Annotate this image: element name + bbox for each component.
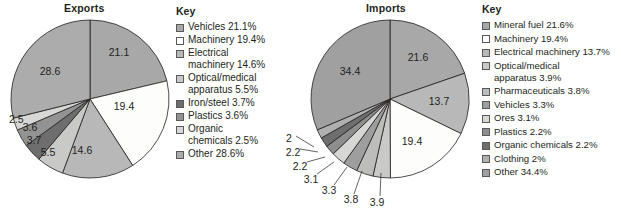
exports-key-item: Electrical machinery 14.6%	[176, 47, 311, 71]
exports-key-swatch	[176, 151, 184, 159]
exports-key-swatch	[176, 126, 184, 134]
imports-key-swatch	[482, 62, 490, 70]
imports-key-swatch	[482, 115, 490, 123]
imports-slice-label: 3.9	[370, 196, 385, 208]
exports-slice-label: 2.5	[9, 113, 24, 125]
exports-key-label: Iron/steel 3.7%	[188, 97, 255, 109]
exports-key-item: Plastics 3.6%	[176, 110, 311, 122]
imports-key-label: Plastics 2.2%	[494, 126, 552, 138]
imports-key-label: Machinery 19.4%	[494, 33, 568, 45]
imports-slice-label: 19.4	[402, 135, 423, 147]
imports-key: Key Mineral fuel 21.6%Machinery 19.4%Ele…	[482, 3, 617, 180]
exports-slice-label: 3.6	[23, 121, 38, 133]
exports-key-swatch	[176, 24, 184, 32]
imports-pie-chart: 21.613.719.434.43.93.83.33.12.22.22	[300, 13, 485, 208]
imports-slice-label: 3.3	[322, 184, 337, 196]
imports-key-swatch	[482, 142, 490, 150]
imports-slice-label: 21.6	[408, 51, 429, 63]
imports-key-swatch	[482, 35, 490, 43]
imports-key-label: Ores 3.1%	[494, 112, 539, 124]
exports-key-swatch	[176, 75, 184, 83]
exports-key-label: Vehicles 21.1%	[188, 21, 256, 33]
exports-pie-chart: 21.119.414.65.53.73.628.62.5	[8, 13, 173, 188]
imports-slice-label: 13.7	[429, 95, 450, 107]
exports-slice-label: 14.6	[72, 144, 93, 156]
imports-key-swatch	[482, 88, 490, 96]
exports-pie-svg: 21.119.414.65.53.73.628.62.5	[8, 13, 173, 188]
imports-leader-line	[354, 171, 362, 194]
exports-slice-label: 3.7	[27, 134, 42, 146]
imports-leader-line	[300, 149, 318, 152]
exports-key-label: Organic chemicals 2.5%	[188, 123, 258, 147]
exports-key-swatch	[176, 50, 184, 58]
exports-slice-label: 5.5	[41, 146, 56, 158]
exports-key-label: Machinery 19.4%	[188, 34, 265, 46]
imports-slice-label: 2.2	[286, 146, 301, 158]
imports-key-swatch	[482, 169, 490, 177]
exports-key-label: Optical/medical apparatus 5.5%	[188, 72, 258, 96]
imports-slice-label: 3.8	[344, 193, 359, 205]
exports-key-item: Vehicles 21.1%	[176, 21, 311, 33]
imports-key-label: Vehicles 3.3%	[494, 99, 554, 111]
imports-key-swatch	[482, 128, 490, 136]
exports-key-item: Machinery 19.4%	[176, 34, 311, 46]
imports-leader-line	[317, 162, 334, 174]
imports-key-item: Vehicles 3.3%	[482, 99, 617, 111]
imports-slice-label: 34.4	[340, 65, 361, 77]
exports-slice-label: 21.1	[109, 46, 130, 58]
exports-chart-panel: Exports 21.119.414.65.53.73.628.62.5 Key…	[0, 0, 300, 215]
imports-leader-line	[307, 157, 325, 162]
imports-key-label: Organic chemicals 2.2%	[494, 139, 597, 151]
imports-slice-label: 3.1	[304, 173, 319, 185]
exports-key-swatch	[176, 113, 184, 121]
exports-slice-label: 28.6	[40, 65, 61, 77]
exports-key-label: Other 28.6%	[188, 148, 244, 160]
exports-key-title: Key	[176, 5, 311, 17]
imports-key-title: Key	[482, 3, 617, 15]
imports-key-label: Clothing 2%	[494, 153, 546, 165]
imports-key-item: Clothing 2%	[482, 153, 617, 165]
imports-key-label: Other 34.4%	[494, 166, 548, 178]
imports-key-item: Machinery 19.4%	[482, 33, 617, 45]
imports-pie-svg: 21.613.719.434.43.93.83.33.12.22.22	[300, 13, 485, 208]
imports-chart-panel: Imports 21.613.719.434.43.93.83.33.12.22…	[300, 0, 621, 215]
imports-key-swatch	[482, 101, 490, 109]
imports-key-label: Pharmaceuticals 3.8%	[494, 85, 589, 97]
imports-leader-line	[334, 167, 347, 185]
exports-key-swatch	[176, 37, 184, 45]
imports-key-item: Optical/medical apparatus 3.9%	[482, 60, 617, 84]
imports-key-item: Plastics 2.2%	[482, 126, 617, 138]
imports-key-item: Pharmaceuticals 3.8%	[482, 85, 617, 97]
imports-key-item: Other 34.4%	[482, 166, 617, 178]
exports-key-label: Plastics 3.6%	[188, 110, 248, 122]
imports-key-item: Organic chemicals 2.2%	[482, 139, 617, 151]
exports-key-item: Optical/medical apparatus 5.5%	[176, 72, 311, 96]
imports-key-label: Electrical machinery 13.7%	[494, 46, 610, 58]
imports-slice-label: 2	[286, 132, 292, 144]
imports-key-label: Optical/medical apparatus 3.9%	[494, 60, 561, 84]
imports-key-swatch	[482, 49, 490, 57]
exports-key-swatch	[176, 100, 184, 108]
imports-key-item: Ores 3.1%	[482, 112, 617, 124]
exports-key-item: Iron/steel 3.7%	[176, 97, 311, 109]
imports-key-item: Electrical machinery 13.7%	[482, 46, 617, 58]
imports-key-item: Mineral fuel 21.6%	[482, 19, 617, 31]
imports-key-label: Mineral fuel 21.6%	[494, 19, 573, 31]
imports-key-swatch	[482, 22, 490, 30]
imports-slice-label: 2.2	[293, 160, 308, 172]
imports-key-list: Mineral fuel 21.6%Machinery 19.4%Electri…	[482, 19, 617, 178]
imports-key-swatch	[482, 155, 490, 163]
exports-slice-label: 19.4	[114, 100, 135, 112]
exports-key-label: Electrical machinery 14.6%	[188, 47, 265, 71]
